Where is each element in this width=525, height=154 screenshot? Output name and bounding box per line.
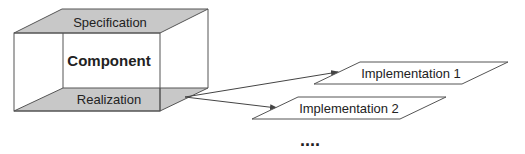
implementation-2-label: Implementation 2 (299, 101, 399, 116)
implementation-2: Implementation 2 (252, 97, 446, 119)
arrow-to-implementation-2 (185, 97, 277, 108)
component-title: Component (67, 52, 150, 69)
realization-label: Realization (77, 92, 141, 107)
ellipsis: .... (300, 130, 320, 150)
component-diagram: Specification Component Realization Impl… (0, 0, 525, 154)
implementation-1-label: Implementation 1 (361, 66, 461, 81)
component-box: Specification Component Realization (14, 9, 208, 111)
specification-label: Specification (73, 15, 147, 30)
implementation-1: Implementation 1 (314, 62, 508, 84)
